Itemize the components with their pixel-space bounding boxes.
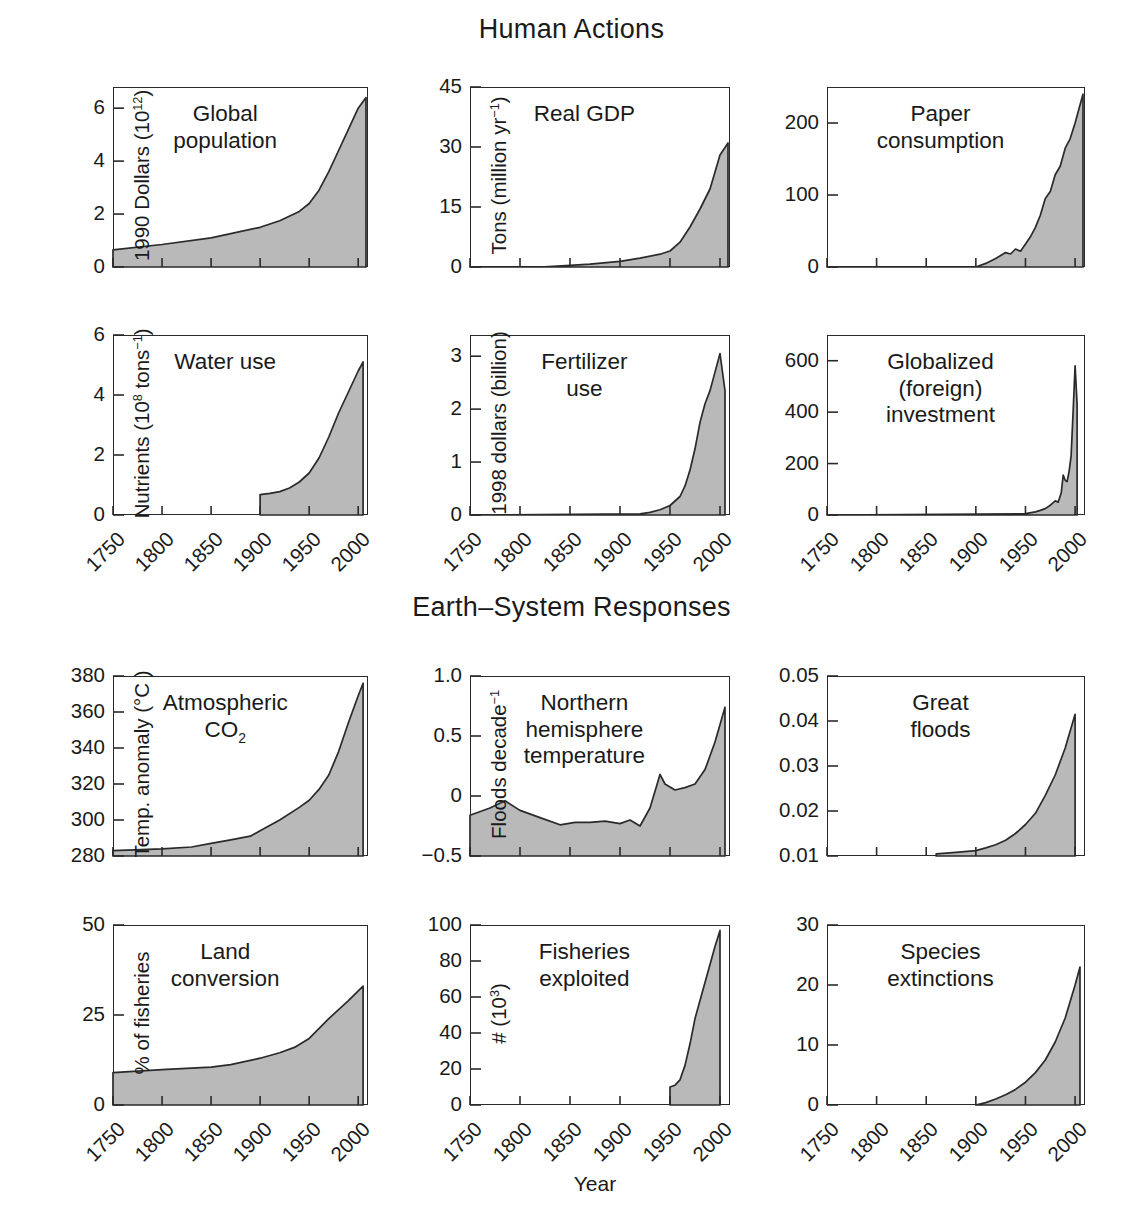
x-tick-label: 1750	[783, 1117, 844, 1178]
x-tick-label: 1850	[882, 1117, 943, 1178]
y-tick-label: 20	[735, 972, 819, 996]
y-tick-label: 30	[735, 912, 819, 936]
x-tick-label: 1900	[932, 1117, 993, 1178]
chart-panel-species-extinctions: 0102030# (103)175018001850190019502000Sp…	[0, 0, 1143, 1225]
y-axis-label-species-extinctions: # (103)	[487, 893, 512, 1133]
x-tick-label: 1950	[982, 1117, 1043, 1178]
x-tick-label: 1800	[833, 1117, 894, 1178]
chart-title-species-extinctions: Speciesextinctions	[848, 939, 1034, 992]
x-axis-label: Year	[535, 1172, 655, 1196]
x-tick-label: 2000	[1031, 1117, 1092, 1178]
y-tick-label: 0	[735, 1092, 819, 1116]
y-tick-label: 10	[735, 1032, 819, 1056]
